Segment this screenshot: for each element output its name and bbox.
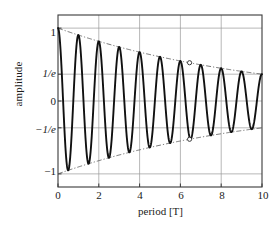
- lower-envelope-marker: [187, 137, 191, 141]
- upper-envelope-marker: [187, 61, 191, 65]
- damped-oscillation-curve: [58, 28, 262, 170]
- plot-area: [0, 0, 279, 227]
- chart-figure: amplitude 1 1/e 0 −1/e −1 0 2 4 6 8 10 p…: [0, 0, 279, 227]
